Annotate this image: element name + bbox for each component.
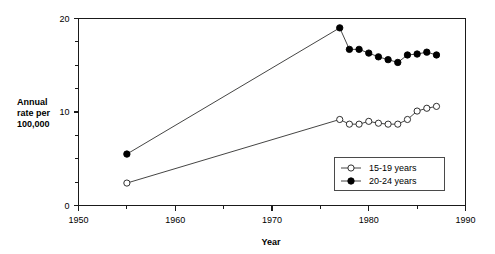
data-point	[375, 54, 381, 60]
legend-label: 20-24 years	[369, 176, 417, 186]
x-tick-label: 1970	[262, 215, 282, 225]
legend-label: 15-19 years	[369, 163, 417, 173]
data-point	[424, 49, 430, 55]
data-point	[346, 46, 352, 52]
data-point	[385, 121, 391, 127]
data-point	[404, 116, 410, 122]
y-axis-title-line-2: rate per	[17, 108, 51, 118]
x-tick-label: 1950	[68, 215, 88, 225]
legend-filled-circle-icon	[348, 178, 354, 184]
y-tick-label: 0	[64, 201, 69, 211]
data-point	[414, 108, 420, 114]
y-axis-title-line-3: 100,000	[17, 119, 50, 129]
data-point	[124, 180, 130, 186]
data-point	[356, 46, 362, 52]
y-tick-label: 10	[59, 107, 69, 117]
data-point	[366, 118, 372, 124]
data-point	[433, 52, 439, 58]
data-point	[395, 121, 401, 127]
data-point	[385, 56, 391, 62]
x-axis-title: Year	[261, 237, 281, 247]
data-point	[337, 116, 343, 122]
chart-figure: 19501960197019801990 01020 Year Annual r…	[0, 0, 495, 254]
data-point	[395, 59, 401, 65]
legend-open-circle-icon	[348, 165, 354, 171]
y-axis-title: Annual rate per 100,000	[17, 97, 51, 129]
x-tick-label: 1960	[165, 215, 185, 225]
data-point	[356, 121, 362, 127]
data-point	[346, 121, 352, 127]
data-point	[366, 50, 372, 56]
data-point	[375, 120, 381, 126]
data-point	[124, 151, 130, 157]
data-point	[337, 25, 343, 31]
y-axis-title-line-1: Annual	[17, 97, 48, 107]
chart-legend: 15-19 years20-24 years	[334, 157, 444, 190]
data-point	[414, 51, 420, 57]
y-tick-label: 20	[59, 14, 69, 24]
data-point	[433, 103, 439, 109]
line-chart: 19501960197019801990 01020 Year Annual r…	[0, 0, 495, 254]
data-point	[404, 52, 410, 58]
x-tick-label: 1980	[359, 215, 379, 225]
x-tick-label: 1990	[455, 215, 475, 225]
data-point	[424, 105, 430, 111]
